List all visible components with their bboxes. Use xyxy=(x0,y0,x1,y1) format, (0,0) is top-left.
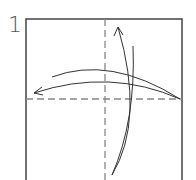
fold-diagram xyxy=(0,0,196,180)
